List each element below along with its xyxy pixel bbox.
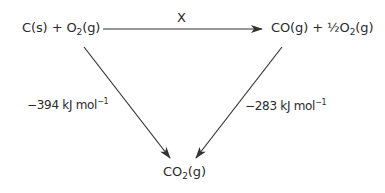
left-enthalpy-value: −394 xyxy=(27,98,59,112)
right-enthalpy-value: −283 xyxy=(245,99,277,113)
intermediate-node: CO(g) + ½O2(g) xyxy=(271,20,373,36)
left-enthalpy-unit: kJ mol xyxy=(62,98,97,112)
reactants-node: C(s) + O2(g) xyxy=(22,20,100,36)
left-enthalpy-exponent: −1 xyxy=(97,97,108,106)
intermediate-main-text: CO(g) + ½O xyxy=(271,20,350,35)
reactants-main-text: C(s) + O xyxy=(22,20,77,35)
reaction-x-label: X xyxy=(177,10,186,26)
right-enthalpy-label: −283 kJ mol−1 xyxy=(245,98,326,114)
right-enthalpy-exponent: −1 xyxy=(315,98,326,107)
left-enthalpy-label: −394 kJ mol−1 xyxy=(27,97,108,113)
product-node: CO2(g) xyxy=(163,164,206,180)
intermediate-state: (g) xyxy=(355,20,373,35)
product-state: (g) xyxy=(188,164,206,179)
right-enthalpy-unit: kJ mol xyxy=(280,99,315,113)
product-main-text: CO xyxy=(163,164,182,179)
hess-cycle-diagram: C(s) + O2(g) X CO(g) + ½O2(g) −394 kJ mo… xyxy=(0,0,385,193)
reactants-state: (g) xyxy=(82,20,100,35)
x-text: X xyxy=(177,10,186,25)
